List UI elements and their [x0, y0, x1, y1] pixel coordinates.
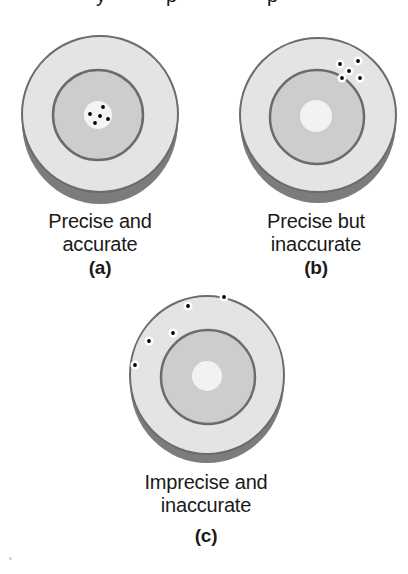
target-a [22, 36, 178, 204]
caption-b-tag: (b) [216, 257, 408, 278]
caption-c: Imprecise and inaccurate (c) [106, 471, 306, 546]
scan-speck [9, 557, 12, 560]
caption-b-line2: inaccurate [216, 233, 408, 256]
target-c-bullseye [192, 361, 222, 391]
caption-c-line1: Imprecise and [106, 471, 306, 494]
target-b-bullseye [300, 100, 332, 132]
target-a-bullseye [84, 101, 112, 129]
target-b [240, 38, 396, 203]
caption-a-line2: accurate [0, 233, 200, 256]
caption-b: Precise but inaccurate (b) [216, 210, 408, 278]
caption-c-tag: (c) [106, 525, 306, 546]
caption-a-line1: Precise and [0, 210, 200, 233]
caption-a: Precise and accurate (a) [0, 210, 200, 278]
caption-c-line2: inaccurate [106, 494, 306, 517]
caption-a-tag: (a) [0, 257, 200, 278]
caption-b-line1: Precise but [216, 210, 408, 233]
target-c [130, 293, 284, 464]
figure-canvas: y p p [0, 0, 408, 574]
